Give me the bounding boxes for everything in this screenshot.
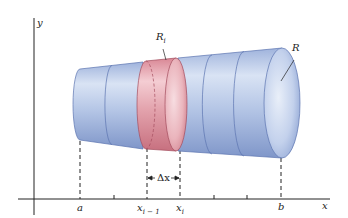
x-axis-label: x [322, 201, 328, 211]
region-r-label: R [292, 43, 300, 53]
y-axis-label: y [37, 18, 43, 28]
leader-ri [163, 49, 166, 60]
slice-ri-label: Ri [156, 32, 166, 45]
delta-x-label: Δx [157, 173, 170, 183]
x-prev-label: xi − 1 [137, 203, 160, 216]
slice-ri-face [165, 58, 187, 151]
a-label: a [77, 203, 83, 213]
x-cur-label: xi [176, 203, 184, 216]
solid-left-body [73, 62, 143, 149]
region-r-face [264, 48, 300, 158]
solid-diagram [0, 0, 348, 218]
b-label: b [278, 202, 284, 212]
